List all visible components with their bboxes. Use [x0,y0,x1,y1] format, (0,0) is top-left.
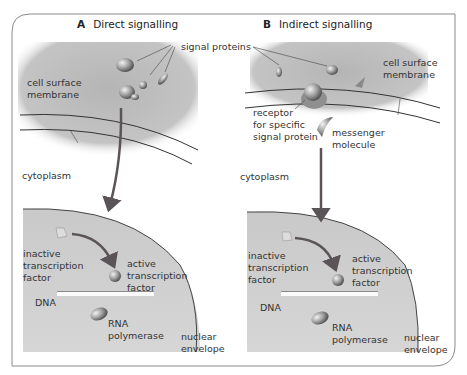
label-rna-pol-b: RNA polymerase [332,322,388,346]
label-membrane-a: cell surface membrane [27,77,81,101]
panel-b-title: BIndirect signalling [263,18,372,30]
label-dna-b: DNA [260,302,281,314]
label-cytoplasm-b: cytoplasm [240,171,289,183]
label-inactive-tf-b: inactive transcription factor [248,250,308,286]
label-inactive-tf-a: inactive transcription factor [23,248,83,284]
panel-a-title: ADirect signalling [77,18,178,30]
label-messenger: messenger molecule [332,127,385,151]
label-signal-proteins: signal proteins [181,41,251,53]
label-receptor: receptor for specific signal protein [253,107,318,143]
label-rna-pol-a: RNA polymerase [108,318,164,342]
label-nuclear-env-a: nuclear envelope [181,331,225,355]
label-dna-a: DNA [35,297,56,309]
label-cytoplasm-a: cytoplasm [22,170,71,182]
label-active-tf-b: active transcription factor [352,253,412,289]
label-active-tf-a: active transcription factor [127,258,187,294]
label-nuclear-env-b: nuclear envelope [404,332,448,356]
label-membrane-b: cell surface membrane [383,57,437,81]
